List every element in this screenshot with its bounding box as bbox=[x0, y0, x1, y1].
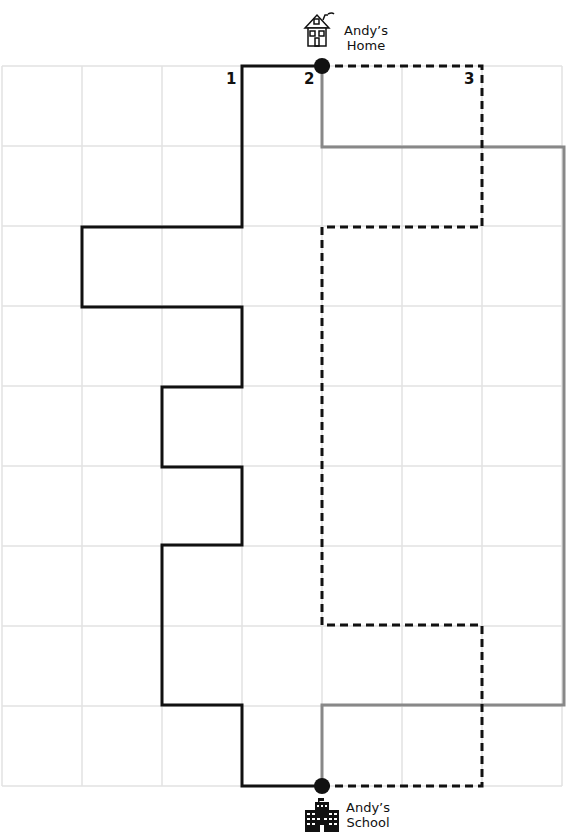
school-label-line2: School bbox=[338, 815, 398, 830]
route-2-path bbox=[322, 66, 564, 786]
route-3-label: 3 bbox=[464, 70, 474, 88]
home-label-line2: Home bbox=[336, 38, 396, 53]
route-1-label: 1 bbox=[226, 70, 236, 88]
school-point bbox=[314, 778, 330, 794]
home-point bbox=[314, 58, 330, 74]
home-label-line1: Andy’s bbox=[336, 23, 396, 38]
school-label-line1: Andy’s bbox=[338, 800, 398, 815]
home-label: Andy’s Home bbox=[336, 23, 396, 53]
route-2-label: 2 bbox=[304, 70, 314, 88]
house-icon bbox=[305, 13, 334, 46]
school-building-icon bbox=[305, 798, 339, 832]
route-1-path bbox=[82, 66, 322, 786]
routes bbox=[82, 66, 564, 786]
route-map-canvas bbox=[0, 0, 569, 834]
school-label: Andy’s School bbox=[338, 800, 398, 830]
grid-lines bbox=[2, 66, 562, 786]
